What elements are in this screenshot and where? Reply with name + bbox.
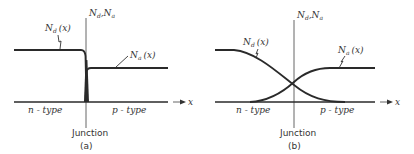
panel-a-n-type-label: n - type [28, 105, 62, 115]
panel-a-axis-label: Nd,Na [88, 8, 115, 19]
panel-a-donor-curve [14, 50, 87, 102]
panel-b-x-arrow-icon [380, 100, 393, 105]
panel-b-donor-label: Nd(x) [242, 37, 269, 58]
panel-b-acceptor-label: Na(x) [337, 45, 364, 68]
panel-a-junction-label: Junction [71, 128, 108, 138]
panel-b-n-type-label: n - type [236, 105, 270, 115]
panel-b-caption: (b) [288, 141, 301, 151]
svg-text:Na(x): Na(x) [337, 45, 364, 56]
panel-a-acceptor-curve [86, 68, 169, 102]
panel-a-x-label: x [188, 97, 193, 107]
panel-a-acceptor-label: Na(x) [116, 50, 156, 67]
panel-b-p-type-label: p - type [320, 105, 354, 115]
panel-a-p-type-label: p - type [112, 105, 146, 115]
panel-a: x Nd,Na Nd(x) Na(x) n - type p - type Ju [14, 8, 193, 151]
panel-b-acceptor-leader [339, 56, 345, 68]
svg-text:Nd,Na: Nd,Na [88, 8, 115, 19]
panel-a-donor-leader [58, 35, 61, 49]
panel-b-junction-label: Junction [279, 128, 316, 138]
svg-text:Nd(x): Nd(x) [242, 37, 269, 48]
panel-a-caption: (a) [80, 141, 93, 151]
panel-a-donor-label: Nd(x) [44, 23, 71, 49]
pn-junction-doping-diagram: x Nd,Na Nd(x) Na(x) n - type p - type Ju [0, 0, 414, 154]
panel-a-acceptor-leader [116, 56, 128, 67]
panel-b: x Nd,Na Nd(x) Na(x) n - type p - type Ju… [215, 10, 400, 151]
svg-text:Na(x): Na(x) [129, 50, 156, 61]
panel-a-junction-spike [84, 60, 89, 102]
panel-b-axis-label: Nd,Na [296, 10, 323, 21]
panel-b-x-label: x [395, 97, 400, 107]
svg-text:Nd(x): Nd(x) [44, 23, 71, 34]
svg-text:Nd,Na: Nd,Na [296, 10, 323, 21]
panel-b-donor-leader [256, 49, 258, 58]
panel-b-donor-curve [215, 50, 345, 102]
panel-a-x-arrow-icon [173, 100, 186, 105]
